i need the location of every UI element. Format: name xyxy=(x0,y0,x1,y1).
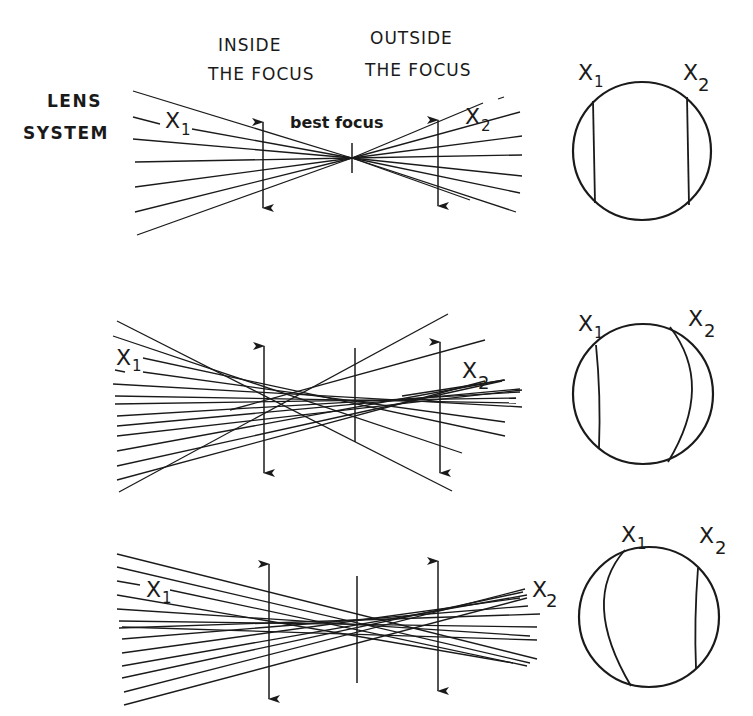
x2-label: X 2 xyxy=(462,358,489,393)
svg-text:OUTSIDE: OUTSIDE xyxy=(370,28,453,48)
svg-text:1: 1 xyxy=(132,357,142,375)
x2-label: X 2 xyxy=(465,104,491,135)
svg-text:INSIDE: INSIDE xyxy=(218,35,281,55)
svg-text:2: 2 xyxy=(478,372,489,393)
svg-text:1: 1 xyxy=(162,589,172,607)
svg-text:X: X xyxy=(683,60,698,85)
svg-text:LENS: LENS xyxy=(47,91,102,111)
x2-chord xyxy=(668,327,692,462)
ray-bundle xyxy=(117,554,540,705)
svg-text:2: 2 xyxy=(704,320,715,341)
svg-text:2: 2 xyxy=(715,537,726,558)
svg-text:X: X xyxy=(621,522,636,547)
pupil-circle-perfect: X 1 X 2 xyxy=(573,60,711,220)
x1-chord xyxy=(596,345,600,448)
svg-text:THE FOCUS: THE FOCUS xyxy=(364,60,472,80)
ray-panel-aberration-a: X 1 X 2 xyxy=(113,314,522,492)
svg-text:1: 1 xyxy=(594,73,604,91)
svg-text:X: X xyxy=(462,358,477,383)
svg-text:X: X xyxy=(116,345,131,370)
x1-chord xyxy=(593,101,595,203)
svg-text:1: 1 xyxy=(181,121,191,139)
svg-text:X: X xyxy=(146,577,161,602)
svg-text:X: X xyxy=(578,60,593,85)
circle-x1-label: X 1 xyxy=(578,311,604,342)
circle-x2-label: X 2 xyxy=(683,60,709,95)
circle-x1-label: X 1 xyxy=(578,60,604,91)
x1-label: X 1 xyxy=(165,108,191,139)
x2-chord xyxy=(695,568,698,668)
pupil-circle-aberration-a: X 1 X 2 xyxy=(573,306,715,464)
svg-text:X: X xyxy=(532,577,547,602)
column-header-inside: INSIDE THE FOCUS xyxy=(207,35,315,84)
ray-panel-perfect: best focus X 1 X 2 xyxy=(133,91,522,235)
svg-text:2: 2 xyxy=(698,74,709,95)
column-header-outside: OUTSIDE THE FOCUS xyxy=(364,28,472,80)
x2-chord xyxy=(687,97,689,205)
pupil-circle-aberration-b: X 1 X 2 xyxy=(579,522,726,687)
circle-x2-label: X 2 xyxy=(699,523,726,558)
svg-text:1: 1 xyxy=(637,535,647,553)
svg-text:SYSTEM: SYSTEM xyxy=(23,123,109,143)
x1-chord xyxy=(604,550,631,686)
row-header-lens-system: LENS SYSTEM xyxy=(23,91,109,143)
svg-text:2: 2 xyxy=(546,590,557,611)
svg-text:X: X xyxy=(465,104,480,129)
svg-text:X: X xyxy=(578,311,593,336)
svg-text:1: 1 xyxy=(594,324,604,342)
svg-text:THE FOCUS: THE FOCUS xyxy=(207,64,315,84)
ray-bundle xyxy=(113,314,522,492)
svg-text:X: X xyxy=(165,108,180,133)
svg-text:2: 2 xyxy=(481,117,491,135)
svg-text:X: X xyxy=(688,306,703,331)
svg-text:X: X xyxy=(699,523,714,548)
best-focus-label: best focus xyxy=(290,113,383,132)
lens-ray-diagram: INSIDE THE FOCUS OUTSIDE THE FOCUS LENS … xyxy=(0,0,753,716)
circle-x2-label: X 2 xyxy=(688,306,715,341)
x2-label: X 2 xyxy=(532,577,557,611)
ray-panel-aberration-b: X 1 X 2 xyxy=(117,554,557,705)
